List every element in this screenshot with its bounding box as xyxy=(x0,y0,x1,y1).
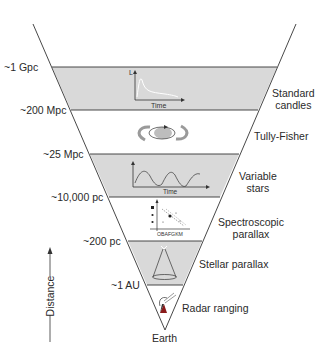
svg-text:Time: Time xyxy=(163,188,178,195)
svg-text:OBAFGKM: OBAFGKM xyxy=(157,231,183,237)
method-label-spectroscopic-parallax: Spectroscopic parallax xyxy=(218,216,284,240)
svg-text:L: L xyxy=(129,69,133,76)
rotating-galaxy-icon xyxy=(139,125,187,140)
method-label-line2: stars xyxy=(239,182,277,194)
hr-diagram-icon: OBAFGKM xyxy=(150,199,190,237)
apex-label-earth: Earth xyxy=(152,332,177,344)
method-label-line1: Standard xyxy=(272,87,315,99)
distance-axis-label: Distance xyxy=(44,275,56,316)
boundary-label-200mpc: ~200 Mpc xyxy=(20,104,66,116)
boundary-label-25mpc: ~25 Mpc xyxy=(43,148,84,160)
boundary-label-10000pc: ~10,000 pc xyxy=(51,191,103,203)
method-label-stellar-parallax: Stellar parallax xyxy=(199,258,268,270)
method-label-line2: parallax xyxy=(218,228,284,240)
boundary-label-200pc: ~200 pc xyxy=(83,235,121,247)
boundary-label-1au: ~1 AU xyxy=(111,279,140,291)
method-label-tully-fisher: Tully-Fisher xyxy=(254,130,308,142)
method-label-variable-stars: Variable stars xyxy=(239,170,277,194)
method-label-standard-candles: Standard candles xyxy=(272,87,315,111)
method-label-radar-ranging: Radar ranging xyxy=(182,302,249,314)
method-label-line2: candles xyxy=(272,99,315,111)
method-label-line1: Variable xyxy=(239,170,277,182)
method-label-line1: Spectroscopic xyxy=(218,216,284,228)
boundary-label-1gpc: ~1 Gpc xyxy=(4,61,38,73)
svg-text:Time: Time xyxy=(151,102,166,109)
